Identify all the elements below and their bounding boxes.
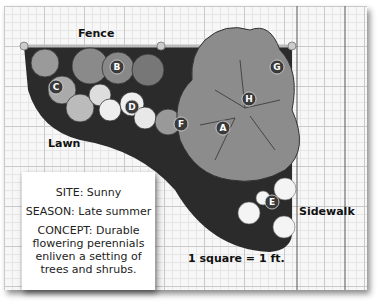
- fence-post: [157, 42, 165, 50]
- fence-label: Fence: [78, 27, 114, 40]
- plant-marker-d: D: [125, 100, 139, 114]
- season-text: SEASON: Late summer: [22, 205, 155, 218]
- svg-text:B: B: [114, 62, 121, 72]
- plant-marker-a: A: [216, 121, 230, 135]
- plant-marker-b: B: [110, 60, 124, 74]
- svg-text:H: H: [245, 94, 253, 104]
- plant-marker-c: C: [49, 80, 63, 94]
- site-info-card: SITE: Sunny SEASON: Late summer CONCEPT:…: [22, 172, 155, 290]
- plant-marker-h: H: [242, 92, 256, 106]
- sidewalk-label: Sidewalk: [299, 205, 355, 218]
- plant-marker-e: E: [265, 195, 279, 209]
- site-text: SITE: Sunny: [22, 186, 155, 199]
- svg-text:A: A: [220, 123, 227, 133]
- svg-text:D: D: [128, 102, 135, 112]
- svg-text:G: G: [273, 62, 280, 72]
- scale-label: 1 square = 1 ft.: [188, 252, 285, 265]
- plant-marker-g: G: [270, 60, 284, 74]
- plant-marker-f: F: [174, 117, 188, 131]
- svg-text:C: C: [53, 82, 60, 92]
- concept-text: CONCEPT: Durable flowering perennials en…: [22, 224, 155, 276]
- svg-text:E: E: [269, 197, 275, 207]
- svg-text:F: F: [178, 119, 184, 129]
- lawn-label: Lawn: [48, 137, 80, 150]
- fence-post: [288, 42, 296, 50]
- fence-post: [20, 42, 28, 50]
